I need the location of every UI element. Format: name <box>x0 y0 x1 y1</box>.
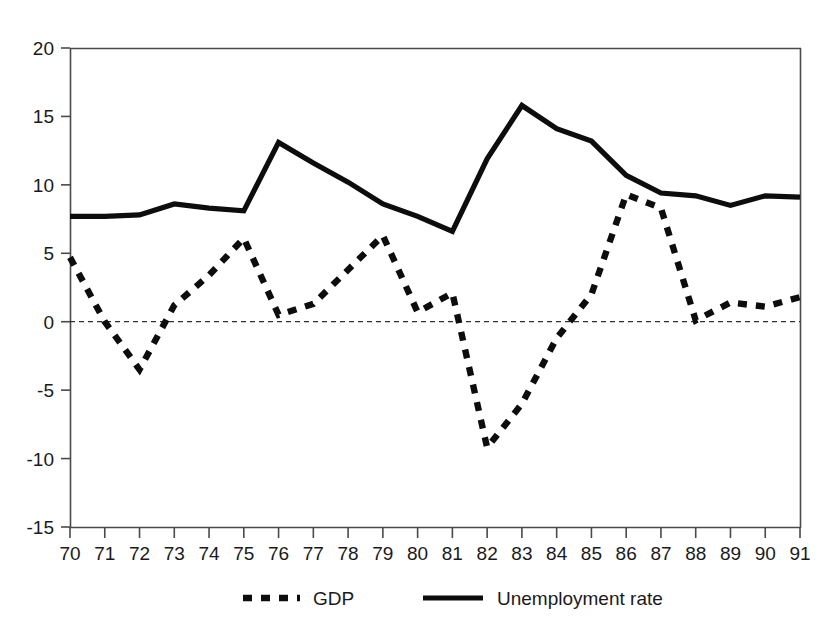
x-tick-label: 85 <box>581 543 602 564</box>
legend-label-unemployment-rate: Unemployment rate <box>497 588 663 609</box>
series-line-gdp <box>70 194 800 447</box>
y-tick-label: -5 <box>37 380 54 401</box>
y-axis-ticks <box>61 48 70 527</box>
legend-label-gdp: GDP <box>313 588 354 609</box>
x-tick-label: 71 <box>94 543 115 564</box>
y-tick-label: 10 <box>33 175 54 196</box>
x-tick-label: 90 <box>755 543 776 564</box>
x-axis-tick-labels: 7071727374757677787980818283848586878889… <box>59 543 810 564</box>
x-tick-label: 89 <box>720 543 741 564</box>
y-tick-label: 15 <box>33 106 54 127</box>
x-tick-label: 83 <box>511 543 532 564</box>
chart-figure: 20151050-5-10-15 70717273747576777879808… <box>0 0 832 638</box>
x-tick-label: 74 <box>198 543 220 564</box>
x-tick-label: 82 <box>477 543 498 564</box>
x-tick-label: 72 <box>129 543 150 564</box>
chart-legend: GDP Unemployment rate <box>243 588 663 609</box>
x-tick-label: 84 <box>546 543 568 564</box>
x-tick-label: 77 <box>303 543 324 564</box>
x-tick-label: 70 <box>59 543 80 564</box>
x-tick-label: 86 <box>616 543 637 564</box>
axes <box>70 48 801 528</box>
x-tick-label: 78 <box>338 543 359 564</box>
y-axis-tick-labels: 20151050-5-10-15 <box>27 38 54 538</box>
y-tick-label: 5 <box>43 243 54 264</box>
chart-svg: 20151050-5-10-15 70717273747576777879808… <box>0 0 832 638</box>
cropped-text-artifact <box>26 0 446 5</box>
y-tick-label: 0 <box>43 312 54 333</box>
x-tick-label: 80 <box>407 543 428 564</box>
x-tick-label: 87 <box>650 543 671 564</box>
x-tick-label: 76 <box>268 543 289 564</box>
y-tick-label: 20 <box>33 38 54 59</box>
y-tick-label: -10 <box>27 449 54 470</box>
x-tick-label: 73 <box>164 543 185 564</box>
x-axis-ticks <box>70 527 800 538</box>
x-tick-label: 91 <box>789 543 810 564</box>
x-tick-label: 88 <box>685 543 706 564</box>
y-tick-label: -15 <box>27 517 54 538</box>
x-tick-label: 79 <box>372 543 393 564</box>
x-tick-label: 81 <box>442 543 463 564</box>
x-tick-label: 75 <box>233 543 254 564</box>
series-line-unemployment-rate <box>70 105 800 231</box>
